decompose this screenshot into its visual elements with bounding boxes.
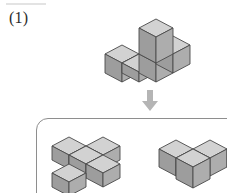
prompt-solid-figure: [98, 14, 204, 86]
arrow-down-icon: [140, 90, 160, 112]
page-root: (1): [0, 0, 227, 193]
down-arrow: [140, 90, 160, 112]
option-a-svg: [46, 130, 142, 193]
prompt-solid-svg: [98, 14, 204, 86]
scan-artifact-line: [6, 3, 46, 5]
answer-option-b[interactable]: [156, 136, 227, 193]
option-b-cube-4: [176, 149, 210, 188]
answer-option-a[interactable]: [46, 130, 142, 193]
option-b-svg: [156, 136, 227, 193]
cube-stacked-top: [139, 19, 173, 63]
question-number-label: (1): [9, 10, 28, 26]
